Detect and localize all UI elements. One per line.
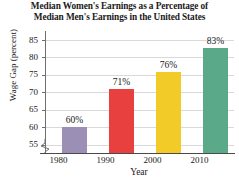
y-tick-label-80: 80 <box>14 53 38 62</box>
bar-value-label-2010: 83% <box>196 36 236 46</box>
y-tick-label-85: 85 <box>14 36 38 45</box>
y-tick-mark-65 <box>42 110 46 111</box>
x-tick-label-1980: 1980 <box>36 155 82 165</box>
bar-value-label-1980: 60% <box>55 115 95 125</box>
axis-break-icon <box>39 139 53 153</box>
y-tick-label-70: 70 <box>14 88 38 97</box>
y-tick-mark-70 <box>42 92 46 93</box>
bar-chart: Median Women's Earnings as a Percentage … <box>0 0 239 184</box>
bar-value-label-1990: 71% <box>102 77 142 87</box>
x-tick-label-2000: 2000 <box>130 155 176 165</box>
y-tick-label-60: 60 <box>14 123 38 132</box>
y-tick-label-55: 55 <box>14 140 38 149</box>
x-tick-label-1990: 1990 <box>83 155 129 165</box>
bar-1980 <box>62 127 87 153</box>
y-tick-label-65: 65 <box>14 105 38 114</box>
plot-area: 85 80 75 70 65 60 55 60% 71% 76% 83% <box>45 31 233 153</box>
chart-title-line-1: Median Women's Earnings as a Percentage … <box>6 1 233 12</box>
bar-1990 <box>109 89 134 153</box>
bar-value-label-2000: 76% <box>149 60 189 70</box>
x-axis-label: Year <box>45 167 233 177</box>
y-tick-mark-75 <box>42 75 46 76</box>
bar-2000 <box>156 72 181 153</box>
y-tick-mark-60 <box>42 127 46 128</box>
bar-2010 <box>203 48 228 153</box>
x-tick-label-2010: 2010 <box>177 155 223 165</box>
y-tick-mark-85 <box>42 40 46 41</box>
chart-title-line-2: Median Men's Earnings in the United Stat… <box>6 12 233 23</box>
y-tick-mark-80 <box>42 57 46 58</box>
chart-title: Median Women's Earnings as a Percentage … <box>6 1 233 22</box>
x-axis-line <box>40 153 235 154</box>
y-tick-label-75: 75 <box>14 70 38 79</box>
